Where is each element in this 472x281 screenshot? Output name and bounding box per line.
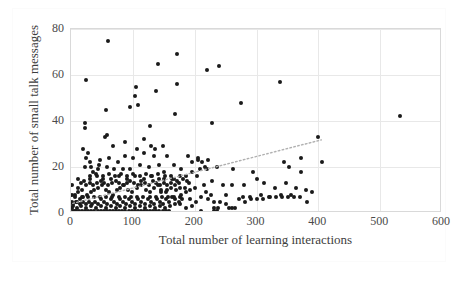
data-point bbox=[215, 165, 219, 169]
data-point bbox=[184, 190, 188, 194]
gridline-vertical bbox=[318, 29, 319, 211]
data-point bbox=[142, 151, 146, 155]
data-point bbox=[152, 211, 156, 212]
data-point bbox=[109, 211, 113, 212]
data-point bbox=[304, 188, 308, 192]
data-point bbox=[298, 195, 302, 199]
data-point bbox=[159, 190, 163, 194]
data-point bbox=[115, 211, 119, 212]
data-point bbox=[92, 195, 96, 199]
data-point bbox=[119, 172, 123, 176]
data-point bbox=[251, 170, 255, 174]
data-point bbox=[210, 121, 214, 125]
data-point bbox=[156, 211, 160, 212]
data-point bbox=[147, 183, 151, 187]
data-point bbox=[193, 211, 197, 212]
data-point bbox=[133, 202, 137, 206]
data-point bbox=[94, 211, 98, 212]
data-point bbox=[193, 186, 197, 190]
data-point bbox=[184, 174, 188, 178]
x-tick-label: 500 bbox=[370, 214, 388, 228]
data-point bbox=[284, 181, 288, 185]
data-point bbox=[156, 62, 160, 66]
x-tick-label: 300 bbox=[247, 214, 265, 228]
data-point bbox=[171, 211, 175, 212]
data-point bbox=[91, 211, 95, 212]
data-point bbox=[282, 160, 286, 164]
data-point bbox=[96, 167, 100, 171]
data-point bbox=[261, 197, 265, 201]
data-point bbox=[88, 177, 92, 181]
data-point bbox=[194, 200, 198, 204]
data-point bbox=[167, 209, 171, 212]
data-point bbox=[190, 204, 194, 208]
data-point bbox=[162, 170, 166, 174]
data-point bbox=[165, 188, 169, 192]
gridline-vertical bbox=[257, 29, 258, 211]
data-point bbox=[165, 154, 169, 158]
data-point bbox=[231, 167, 235, 171]
data-point bbox=[97, 211, 101, 212]
data-point bbox=[230, 183, 234, 187]
data-point bbox=[210, 179, 214, 183]
data-point bbox=[123, 154, 127, 158]
data-point bbox=[100, 211, 104, 212]
data-point bbox=[89, 165, 93, 169]
data-point bbox=[112, 167, 116, 171]
data-point bbox=[105, 165, 109, 169]
data-point bbox=[70, 211, 74, 212]
data-point bbox=[86, 151, 90, 155]
data-point bbox=[172, 177, 176, 181]
data-point bbox=[204, 190, 208, 194]
data-point bbox=[287, 165, 291, 169]
data-point bbox=[161, 144, 165, 148]
data-point bbox=[142, 137, 146, 141]
data-point bbox=[96, 202, 100, 206]
data-point bbox=[398, 114, 402, 118]
x-tick-label: 400 bbox=[308, 214, 326, 228]
data-point bbox=[187, 181, 191, 185]
data-point bbox=[224, 202, 228, 206]
data-point bbox=[280, 195, 284, 199]
data-point bbox=[274, 195, 278, 199]
data-point bbox=[98, 158, 102, 162]
data-point bbox=[154, 195, 158, 199]
data-point bbox=[249, 197, 253, 201]
data-point bbox=[134, 211, 138, 212]
data-point bbox=[116, 160, 120, 164]
data-point bbox=[255, 197, 259, 201]
data-point bbox=[146, 211, 150, 212]
data-point bbox=[129, 195, 133, 199]
data-point bbox=[101, 174, 105, 178]
data-point bbox=[168, 211, 172, 212]
data-point bbox=[217, 64, 221, 68]
data-point bbox=[128, 167, 132, 171]
data-point bbox=[299, 170, 303, 174]
y-tick-label: 60 bbox=[44, 67, 64, 81]
data-point bbox=[83, 121, 87, 125]
data-point bbox=[152, 154, 156, 158]
x-tick-label: 200 bbox=[185, 214, 203, 228]
data-point bbox=[131, 156, 135, 160]
data-point bbox=[153, 147, 157, 151]
data-point bbox=[83, 165, 87, 169]
data-point bbox=[98, 195, 102, 199]
data-point bbox=[209, 193, 213, 197]
data-point bbox=[175, 82, 179, 86]
data-point bbox=[128, 211, 132, 212]
data-point bbox=[143, 202, 147, 206]
data-point bbox=[88, 211, 92, 212]
data-point bbox=[242, 183, 246, 187]
data-point bbox=[81, 147, 85, 151]
data-point bbox=[106, 211, 110, 212]
data-point bbox=[88, 160, 92, 164]
data-point bbox=[83, 126, 87, 130]
data-point bbox=[262, 181, 266, 185]
data-point bbox=[188, 197, 192, 201]
data-point bbox=[310, 190, 314, 194]
data-point bbox=[117, 195, 121, 199]
data-point bbox=[165, 211, 169, 212]
data-point bbox=[162, 177, 166, 181]
data-point bbox=[138, 204, 142, 208]
data-point bbox=[137, 211, 141, 212]
